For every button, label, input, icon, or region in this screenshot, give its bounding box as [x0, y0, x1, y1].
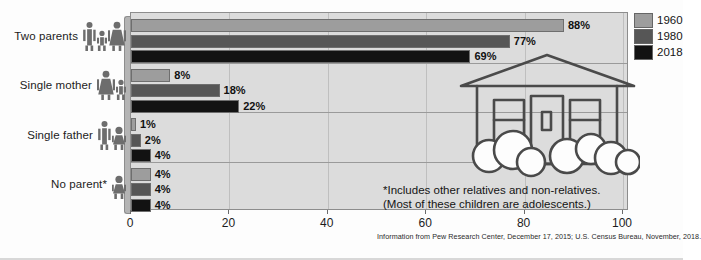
annotation-line-1: *Includes other relatives and non-relati… — [383, 183, 600, 197]
bar — [131, 134, 141, 147]
bar — [131, 50, 470, 63]
plot-area: 88%77%69%8%18%22%1%2%4%4%4%4% — [130, 12, 628, 210]
bar-value-label: 69% — [474, 50, 496, 63]
bar — [131, 183, 151, 196]
bar — [131, 100, 239, 113]
bar — [131, 149, 151, 162]
bar-value-label: 4% — [155, 149, 171, 162]
bar-value-label: 1% — [140, 118, 156, 131]
legend-label-2018: 2018 — [657, 46, 683, 58]
x-tick-label: 0 — [127, 216, 134, 230]
bar-value-label: 18% — [224, 84, 246, 97]
legend-item: 1980 — [634, 28, 683, 44]
bar-value-label: 4% — [155, 183, 171, 196]
x-tick-label: 40 — [320, 216, 333, 230]
man-child-woman-icon — [83, 17, 126, 51]
gridline — [623, 13, 624, 209]
child-man-icon — [98, 116, 126, 150]
annotation-note: *Includes other relatives and non-relati… — [383, 183, 600, 211]
bar — [131, 199, 151, 212]
x-tick-mark — [228, 210, 229, 214]
bar — [131, 84, 220, 97]
child-icon — [112, 165, 126, 199]
legend-label-1980: 1980 — [657, 30, 683, 42]
bar-value-label: 8% — [174, 69, 190, 82]
category-row: Single father — [0, 111, 128, 161]
bar-value-label: 2% — [145, 134, 161, 147]
legend-item: 2018 — [634, 44, 683, 60]
x-tick-mark — [327, 210, 328, 214]
category-label: Single father — [27, 129, 93, 141]
category-label: No parent* — [51, 178, 107, 190]
bar — [131, 35, 510, 48]
bar-value-label: 88% — [568, 19, 590, 32]
bar-value-label: 4% — [155, 199, 171, 212]
bar-value-label: 4% — [155, 168, 171, 181]
x-tick-mark — [130, 210, 131, 214]
source-citation: Information from Pew Research Center, De… — [377, 232, 701, 241]
legend-item: 1960 — [634, 12, 683, 28]
category-label: Two parents — [14, 30, 78, 42]
x-tick-label: 100 — [612, 216, 632, 230]
x-tick-label: 20 — [222, 216, 235, 230]
bar-value-label: 22% — [243, 100, 265, 113]
bar-value-label: 77% — [514, 35, 536, 48]
bar — [131, 118, 136, 131]
woman-child-icon — [97, 66, 126, 100]
x-tick-mark — [622, 210, 623, 214]
chart-legend: 1960 1980 2018 — [634, 12, 683, 60]
x-tick-label: 80 — [517, 216, 530, 230]
annotation-line-2: (Most of these children are adolescents.… — [383, 197, 600, 211]
legend-label-1960: 1960 — [657, 14, 683, 26]
bar — [131, 69, 170, 82]
category-row: No parent* — [0, 161, 128, 211]
x-tick-label: 60 — [419, 216, 432, 230]
bar — [131, 19, 564, 32]
legend-swatch-2018 — [634, 45, 653, 60]
category-row: Single mother — [0, 62, 128, 112]
legend-swatch-1960 — [634, 13, 653, 28]
category-label: Single mother — [20, 79, 92, 91]
legend-swatch-1980 — [634, 29, 653, 44]
category-separator — [131, 162, 627, 163]
category-row: Two parents — [0, 12, 128, 62]
bar — [131, 168, 151, 181]
